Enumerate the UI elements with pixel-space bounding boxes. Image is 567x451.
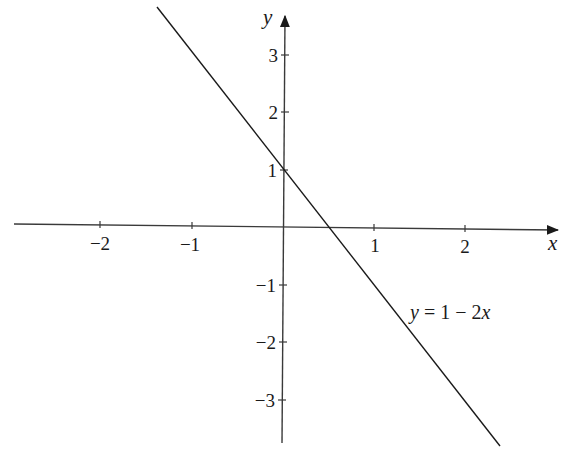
y-tick-label: 1 bbox=[268, 160, 278, 181]
x-tick-label: 2 bbox=[460, 236, 470, 257]
y-axis bbox=[282, 16, 285, 443]
y-tick-label: −3 bbox=[255, 390, 275, 411]
equation-x: x bbox=[480, 301, 490, 323]
line-graph: −2 −1 1 2 3 2 1 −1 −2 −3 x y y = 1 − 2x bbox=[0, 0, 567, 451]
y-tick-label: −1 bbox=[256, 275, 276, 296]
y-axis-label: y bbox=[261, 5, 273, 29]
x-tick-label: −1 bbox=[180, 234, 200, 255]
x-axis bbox=[14, 224, 558, 230]
y-tick-label: 2 bbox=[269, 102, 279, 123]
equation-annotation: y = 1 − 2x bbox=[408, 301, 490, 324]
equation-body: = 1 − 2 bbox=[419, 301, 482, 323]
x-tick-label: −2 bbox=[90, 233, 110, 254]
x-tick-label: 1 bbox=[370, 235, 380, 256]
equation-y: y bbox=[408, 301, 419, 324]
x-axis-label: x bbox=[547, 231, 558, 255]
y-tick-label: −2 bbox=[256, 332, 276, 353]
y-tick-label: 3 bbox=[269, 45, 279, 66]
